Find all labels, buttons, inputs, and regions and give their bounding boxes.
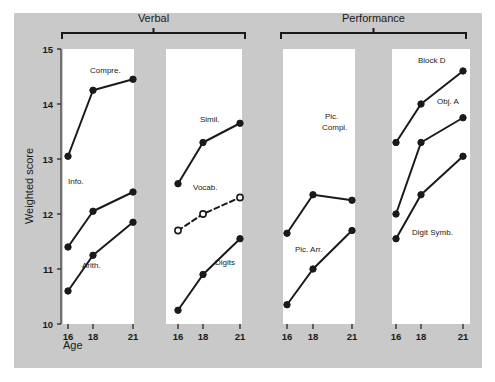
- data-point-block-d-age-18: [418, 101, 424, 107]
- data-point-info-age-16: [65, 244, 71, 250]
- group-label-verbal: Verbal: [138, 12, 169, 24]
- group-bracket-performance: [281, 28, 466, 39]
- data-point-block-d-age-16: [393, 139, 399, 145]
- data-point-obj-a-age-18: [418, 139, 424, 145]
- x-tick-label-p1-18: 18: [198, 331, 209, 342]
- data-point-arith-age-16: [65, 288, 71, 294]
- data-point-digits-age-21: [237, 236, 243, 242]
- data-point-info-age-21: [130, 189, 136, 195]
- y-tick-label-11: 11: [43, 264, 54, 275]
- x-tick-label-p1-21: 21: [235, 331, 246, 342]
- y-tick-label-13: 13: [42, 154, 53, 165]
- series-label-pic: Pic.: [325, 112, 338, 121]
- x-tick-label-p0-21: 21: [128, 331, 139, 342]
- series-label-compl: Compl.: [322, 123, 347, 132]
- series-label-digit-symb: Digit Symb.: [412, 228, 453, 237]
- data-point-digit-symb-age-18: [418, 192, 424, 198]
- x-tick-label-p2-18: 18: [308, 331, 319, 342]
- chart-svg: 101112131415Weighted score16182116182116…: [0, 0, 495, 382]
- data-point-pic-arr-age-16: [284, 302, 290, 308]
- x-tick-label-p3-18: 18: [416, 331, 427, 342]
- data-point-vocab-age-16: [175, 227, 181, 233]
- y-tick-label-14: 14: [42, 99, 53, 110]
- data-point-digits-age-16: [175, 307, 181, 313]
- data-point-vocab-age-21: [237, 194, 243, 200]
- x-tick-label-p1-16: 16: [173, 331, 184, 342]
- data-point-simil-age-18: [200, 139, 206, 145]
- data-point-compre-age-21: [130, 76, 136, 82]
- data-point-compre-age-18: [90, 87, 96, 93]
- data-point-pic-arr-age-18: [310, 266, 316, 272]
- data-point-arith-age-21: [130, 219, 136, 225]
- data-point-pic-compl-age-18: [310, 192, 316, 198]
- data-point-obj-a-age-16: [393, 211, 399, 217]
- data-point-pic-compl-age-16: [284, 230, 290, 236]
- x-tick-label-p2-21: 21: [347, 331, 358, 342]
- series-label-simil: Simil.: [200, 115, 220, 124]
- data-point-vocab-age-18: [200, 211, 206, 217]
- x-tick-label-p0-18: 18: [88, 331, 99, 342]
- data-point-block-d-age-21: [460, 68, 466, 74]
- y-tick-label-12: 12: [42, 209, 53, 220]
- series-label-digits: Digits: [215, 258, 235, 267]
- series-label-pic-arr: Pic. Arr.: [295, 245, 323, 254]
- series-label-info: Info.: [68, 177, 84, 186]
- group-label-performance: Performance: [342, 12, 405, 24]
- x-tick-label-p3-21: 21: [458, 331, 469, 342]
- series-label-obj-a: Obj. A: [437, 97, 459, 106]
- series-label-arith: Arith.: [82, 261, 101, 270]
- figure-canvas: 101112131415Weighted score16182116182116…: [0, 0, 495, 382]
- data-point-digit-symb-age-16: [393, 236, 399, 242]
- x-tick-label-p2-16: 16: [282, 331, 293, 342]
- series-label-vocab: Vocab.: [193, 183, 217, 192]
- series-label-compre: Compre.: [90, 66, 121, 75]
- panel-background-2: [283, 49, 355, 324]
- data-point-pic-compl-age-21: [349, 197, 355, 203]
- data-point-simil-age-16: [175, 181, 181, 187]
- data-point-arith-age-18: [90, 252, 96, 258]
- x-axis-title: Age: [63, 339, 83, 351]
- y-tick-label-10: 10: [42, 319, 53, 330]
- group-bracket-verbal: [62, 28, 245, 39]
- series-label-block-d: Block D: [418, 56, 446, 65]
- data-point-simil-age-21: [237, 120, 243, 126]
- data-point-info-age-18: [90, 208, 96, 214]
- data-point-digit-symb-age-21: [460, 153, 466, 159]
- y-axis-title: Weighted score: [23, 148, 35, 224]
- data-point-pic-arr-age-21: [349, 227, 355, 233]
- y-tick-label-15: 15: [42, 44, 53, 55]
- data-point-obj-a-age-21: [460, 115, 466, 121]
- x-tick-label-p3-16: 16: [391, 331, 402, 342]
- data-point-compre-age-16: [65, 153, 71, 159]
- data-point-digits-age-18: [200, 271, 206, 277]
